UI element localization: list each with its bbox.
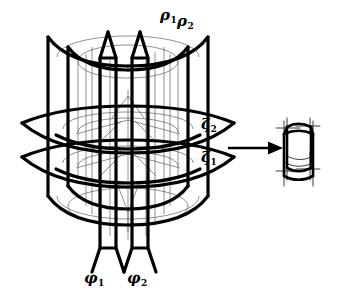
label-phi1: φ1 bbox=[84, 271, 104, 286]
label-zeta2-symbol: ζ bbox=[201, 115, 210, 133]
cell-top-face bbox=[284, 124, 313, 134]
cell-bottom-face bbox=[284, 168, 313, 180]
cell-top-back-arc bbox=[287, 124, 311, 127]
cell-top-front-arc bbox=[284, 131, 313, 134]
label-zeta1-subscript: 1 bbox=[210, 157, 216, 167]
coordinate-surfaces-diagram bbox=[0, 0, 340, 306]
label-phi1-symbol: φ bbox=[84, 269, 98, 287]
label-rho1: ρ1 bbox=[160, 8, 176, 23]
label-rho2: ρ2 bbox=[177, 14, 193, 29]
label-phi2: φ2 bbox=[127, 271, 147, 286]
label-zeta2-subscript: 2 bbox=[210, 124, 216, 134]
label-zeta2: ζ2 bbox=[201, 117, 216, 132]
label-zeta1-symbol: ζ bbox=[201, 148, 210, 166]
label-zeta1: ζ1 bbox=[201, 150, 216, 165]
figure-root: ρ1 ρ2 ζ2 ζ1 φ1 φ2 bbox=[0, 0, 340, 306]
cell-bottom-back-arc bbox=[287, 168, 311, 171]
result-cell bbox=[276, 118, 320, 186]
rho1-bottom-edge-right bbox=[128, 186, 188, 209]
cell-bottom-front-arc bbox=[284, 176, 313, 180]
label-phi2-symbol: φ bbox=[127, 269, 141, 287]
transform-arrow bbox=[228, 142, 283, 155]
label-rho1-symbol: ρ bbox=[160, 6, 170, 24]
rho1-bottom-edge-left bbox=[68, 186, 128, 209]
label-phi2-subscript: 2 bbox=[141, 278, 147, 288]
label-rho2-subscript: 2 bbox=[187, 21, 193, 31]
label-rho1-subscript: 1 bbox=[170, 15, 176, 25]
label-phi1-subscript: 1 bbox=[98, 278, 104, 288]
label-rho2-symbol: ρ bbox=[177, 12, 187, 30]
arrow-head bbox=[268, 142, 283, 155]
